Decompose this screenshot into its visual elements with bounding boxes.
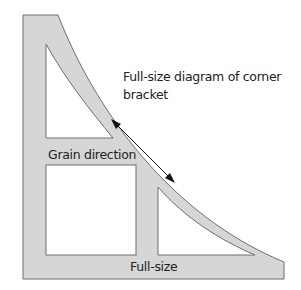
- full-size-label: Full-size: [130, 259, 178, 274]
- cutout-square: [46, 165, 136, 255]
- diagram-title-line1: Full-size diagram of corner: [123, 69, 282, 84]
- corner-bracket-diagram: Full-size diagram of corner bracket Grai…: [0, 0, 301, 290]
- diagram-title-line2: bracket: [123, 87, 168, 102]
- grain-direction-label: Grain direction: [48, 147, 136, 162]
